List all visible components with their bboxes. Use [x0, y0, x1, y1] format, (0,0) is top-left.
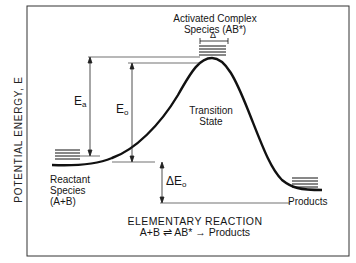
- Eo-label: Eo: [116, 104, 128, 118]
- delta-width-label: Δ: [210, 30, 216, 41]
- Eo-subscript: o: [124, 108, 128, 117]
- y-axis-label: POTENTIAL ENERGY, E: [13, 60, 24, 220]
- reaction-title: ELEMENTARY REACTION A+B ⇌ AB* → Products: [110, 216, 280, 238]
- products-label: Products: [288, 196, 327, 207]
- reaction-equation: A+B ⇌ AB* → Products: [110, 227, 280, 238]
- Ea-subscript: a: [82, 100, 86, 109]
- delta-Eo-symbol: ΔE: [166, 174, 182, 188]
- reactant-line2: Species: [50, 185, 90, 196]
- products-energy-levels: [292, 178, 318, 187]
- transition-state-line2: State: [180, 116, 242, 127]
- reactant-energy-levels: [55, 150, 80, 159]
- transition-state-line1: Transition: [180, 105, 242, 116]
- reactant-line1: Reactant: [50, 174, 90, 185]
- Ea-arrow: [88, 57, 92, 156]
- Ea-label: Ea: [74, 96, 86, 110]
- reactant-species-label: Reactant Species (A+B): [50, 174, 90, 207]
- activated-complex-line1: Activated Complex: [160, 13, 270, 24]
- reactant-line3: (A+B): [50, 196, 90, 207]
- delta-Eo-arrow: [160, 162, 164, 203]
- Eo-symbol: E: [116, 102, 124, 116]
- activated-complex-energy-levels: [199, 46, 226, 55]
- transition-state-label: Transition State: [180, 105, 242, 127]
- delta-Eo-subscript: o: [182, 180, 186, 189]
- delta-Eo-label: ΔEo: [166, 176, 186, 190]
- Ea-symbol: E: [74, 94, 82, 108]
